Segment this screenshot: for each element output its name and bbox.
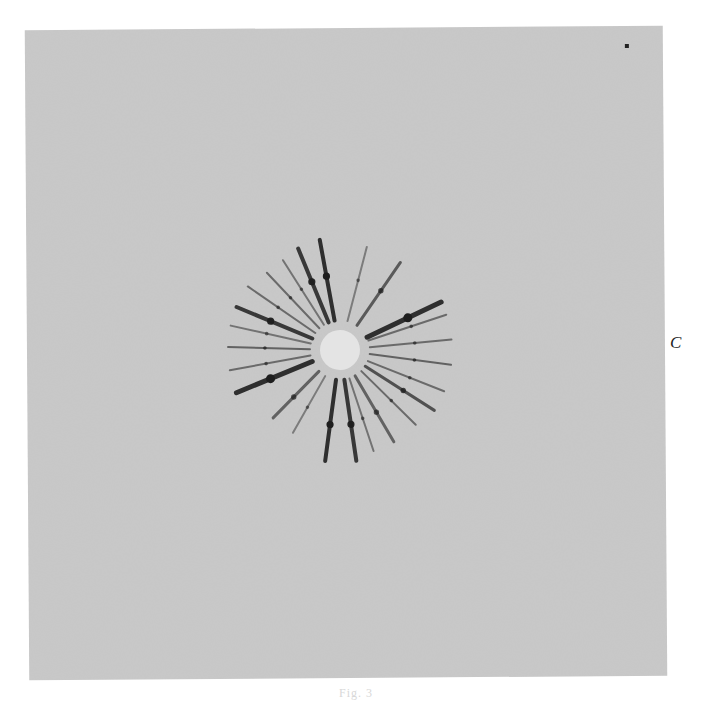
diffraction-spot [326, 421, 333, 428]
diffraction-spot [356, 279, 360, 283]
diffraction-spot [403, 313, 412, 322]
diffraction-spot [300, 287, 304, 291]
figure-label: C [670, 333, 681, 353]
diffraction-spot [413, 358, 417, 362]
diffraction-spot [306, 405, 310, 409]
diffraction-spot [308, 278, 315, 285]
diffraction-spot [361, 417, 365, 421]
laue-pattern [25, 26, 668, 680]
diffraction-spot [263, 346, 267, 350]
diffraction-spot [374, 409, 379, 414]
diffraction-spot [264, 362, 268, 366]
diffraction-spot [323, 273, 330, 280]
diffraction-plate [25, 26, 668, 680]
diffraction-spot [276, 306, 280, 310]
diffraction-spot [389, 399, 393, 403]
diffraction-spot [413, 341, 417, 345]
diffraction-spot [267, 318, 274, 325]
plate-mark [625, 44, 629, 48]
diffraction-spot [291, 394, 296, 399]
diffraction-spot [401, 388, 406, 393]
diffraction-spot [378, 288, 383, 293]
figure-caption: Fig. 3 [0, 686, 712, 701]
diffraction-spot [347, 421, 354, 428]
diffraction-spot [289, 296, 293, 300]
beam-spot [320, 330, 360, 370]
diffraction-spot [409, 325, 413, 329]
diffraction-spot [408, 376, 412, 380]
diffraction-spot [266, 374, 275, 383]
diffraction-spot [265, 332, 269, 336]
